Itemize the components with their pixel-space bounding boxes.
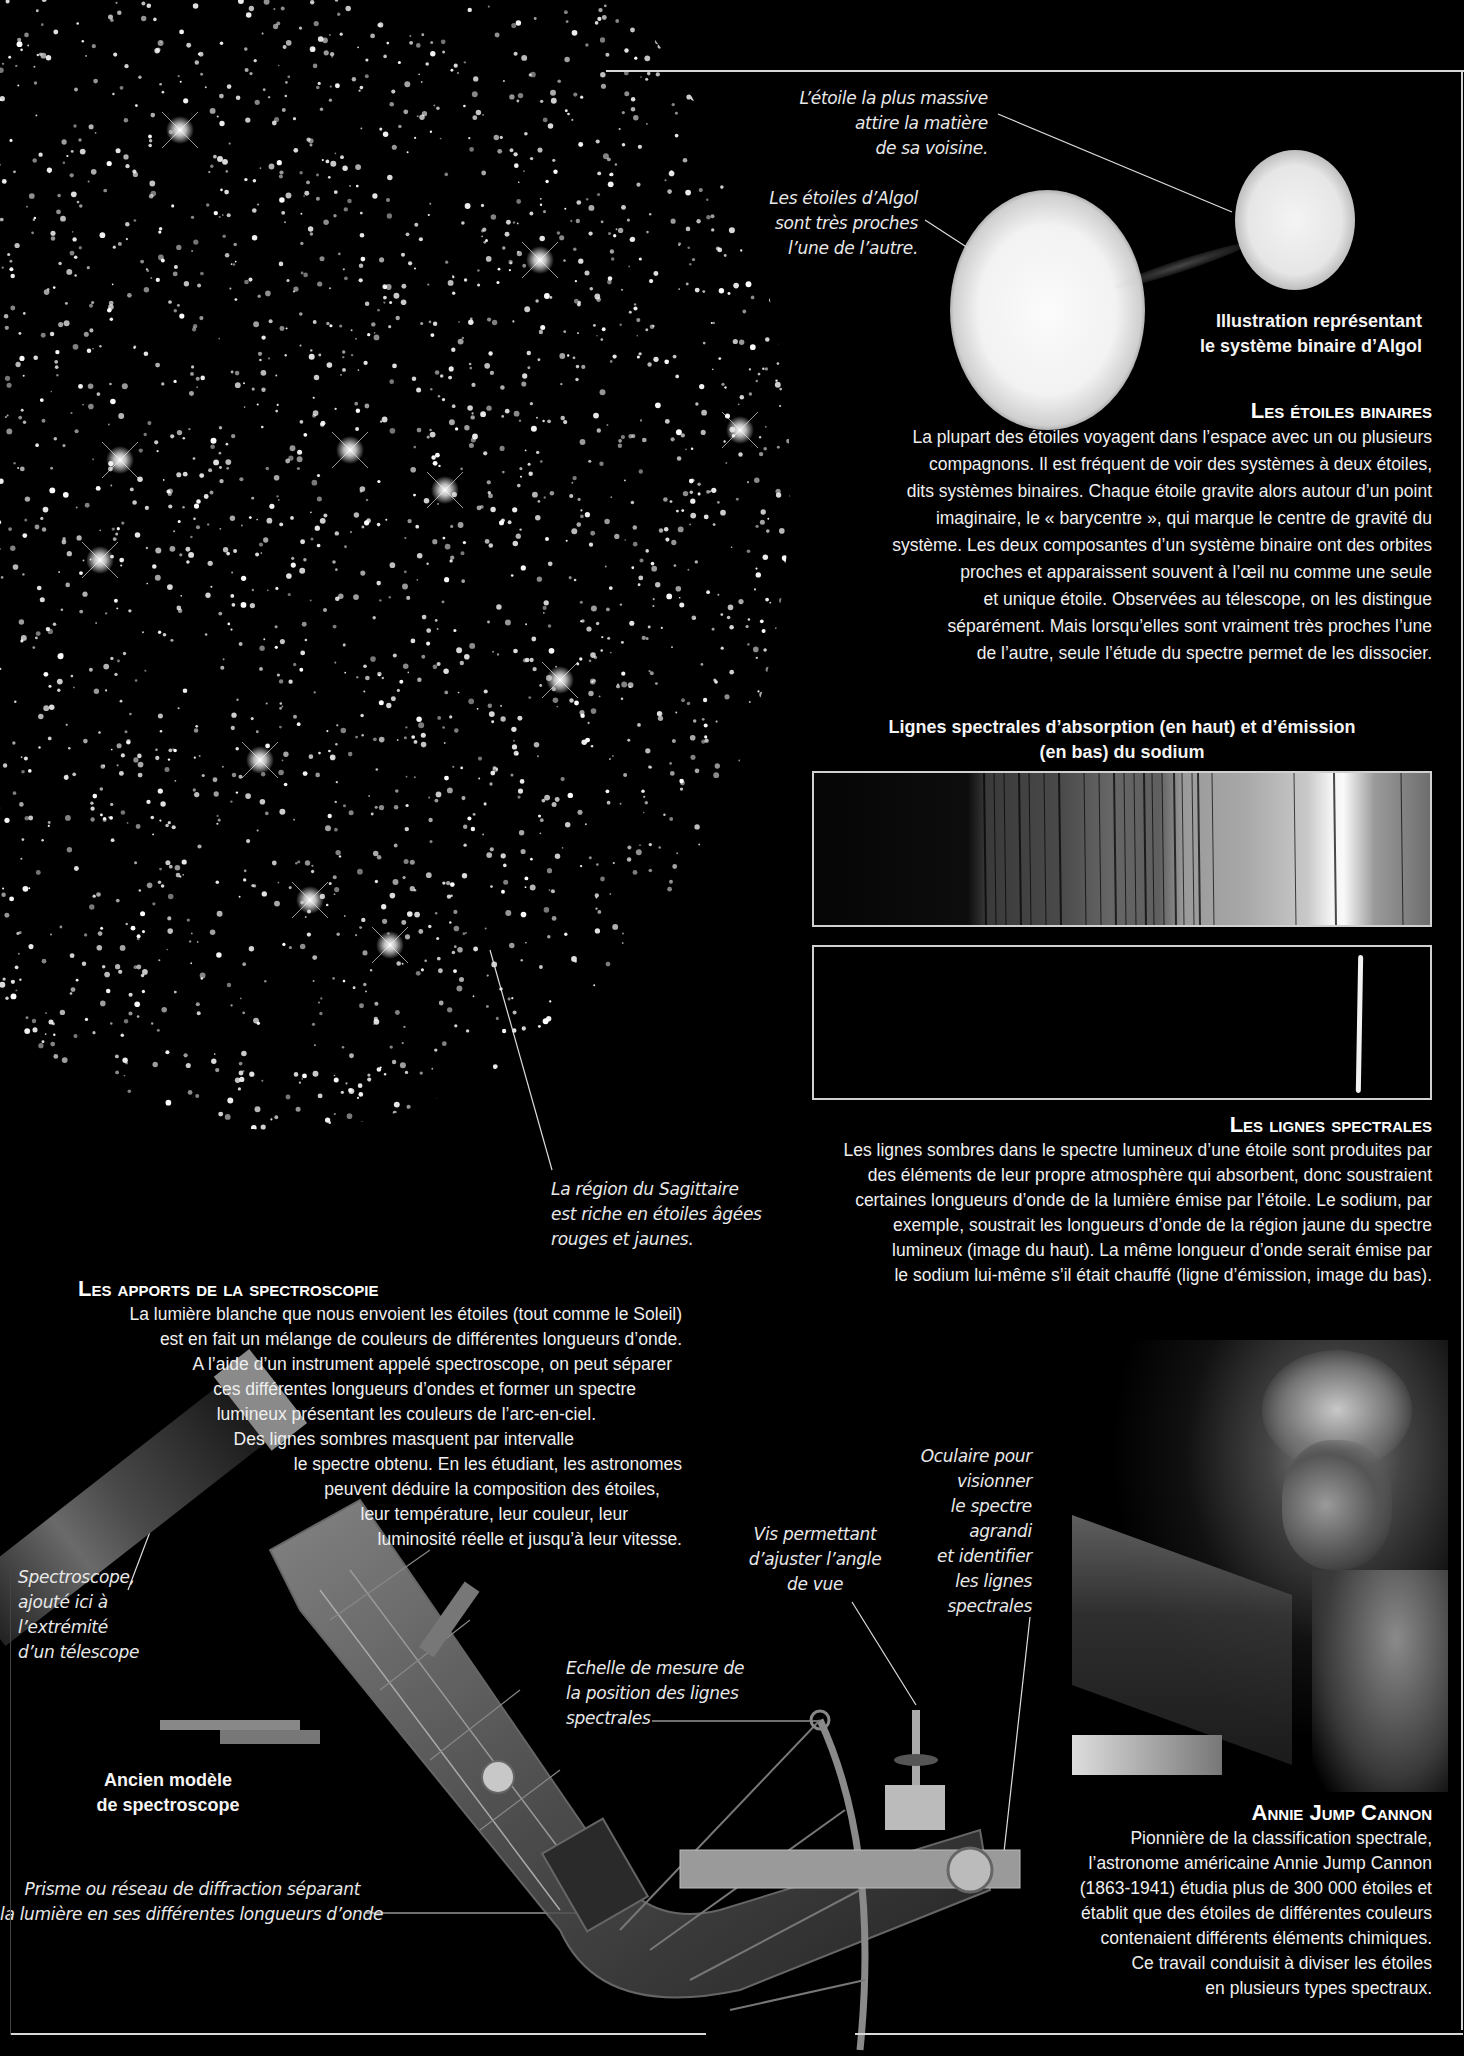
body-line: le spectre obtenu. En les étudiant, les …	[0, 1452, 682, 1477]
body-line: Les lignes sombres dans le spectre lumin…	[780, 1138, 1432, 1163]
scale-callout: Echelle de mesure de la position des lig…	[566, 1656, 744, 1731]
callout-line: la lumière en ses différentes longueurs …	[0, 1902, 360, 1927]
spectroscopy-body: La lumière blanche que nous envoient les…	[0, 1302, 682, 1552]
body-line: Pionnière de la classification spectrale…	[1000, 1826, 1432, 1851]
spectroscope-caption: Ancien modèle de spectroscope	[80, 1768, 256, 1818]
callout-line: Prisme ou réseau de diffraction séparant	[0, 1877, 360, 1902]
caption-line: Illustration représentant	[1100, 309, 1422, 334]
callout-line: le spectre	[900, 1494, 1032, 1519]
body-line: imaginaire, le « barycentre », qui marqu…	[780, 505, 1432, 532]
body-line: de l’autre, seule l’étude du spectre per…	[780, 640, 1432, 667]
body-line: établit que des étoiles de différentes c…	[1000, 1901, 1432, 1926]
body-line: exemple, soustrait les longueurs d’onde …	[780, 1213, 1432, 1238]
body-line: (1863-1941) étudia plus de 300 000 étoil…	[1000, 1876, 1432, 1901]
algol-caption: Illustration représentant le système bin…	[1100, 309, 1422, 359]
algol-close-callout: Les étoiles d’Algol sont très proches l’…	[700, 186, 918, 261]
algol-small-star	[1235, 150, 1355, 290]
callout-line: sont très proches	[700, 211, 918, 236]
section-heading: Les étoiles binaires	[780, 398, 1432, 424]
spectral-lines-section: Les lignes spectrales Les lignes sombres…	[780, 1112, 1432, 1288]
section-body: Les lignes sombres dans le spectre lumin…	[780, 1138, 1432, 1288]
callout-line: les lignes	[900, 1569, 1032, 1594]
algol-massive-callout: L’étoile la plus massive attire la matiè…	[760, 86, 988, 161]
sodium-emission-line	[1356, 955, 1363, 1093]
callout-line: Les étoiles d’Algol	[700, 186, 918, 211]
body-line: leur température, leur couleur, leur	[0, 1502, 682, 1527]
body-line: compagnons. Il est fréquent de voir des …	[780, 451, 1432, 478]
body-line: peuvent déduire la composition des étoil…	[0, 1477, 682, 1502]
screw-callout: Vis permettant d’ajuster l’angle de vue	[740, 1522, 890, 1597]
body-line: lumineux présentant les couleurs de l’ar…	[0, 1402, 682, 1427]
body-line: ces différentes longueurs d’ondes et for…	[0, 1377, 682, 1402]
callout-line: Echelle de mesure de	[566, 1656, 744, 1681]
body-line: séparément. Mais lorsqu’elles sont vraim…	[780, 613, 1432, 640]
annie-jump-cannon-photo	[1072, 1340, 1448, 1792]
spectroscopy-section: Les apports de la spectroscopie	[78, 1276, 718, 1302]
callout-line: attire la matière	[760, 111, 988, 136]
right-border	[1461, 70, 1463, 2030]
binary-stars-section: Les étoiles binaires La plupart des étoi…	[780, 398, 1432, 667]
eyepiece-callout: Oculaire pour visionner le spectre agran…	[900, 1444, 1032, 1619]
annie-jump-cannon-section: Annie Jump Cannon Pionnière de la classi…	[1000, 1800, 1432, 2001]
callout-line: l’extrémité	[18, 1615, 139, 1640]
bottom-rule-right	[855, 2033, 1463, 2035]
callout-line: spectrales	[900, 1594, 1032, 1619]
star-cluster-photo	[0, 0, 800, 1160]
bottom-rule-left	[10, 2033, 706, 2035]
caption-line: le système binaire d’Algol	[1100, 334, 1422, 359]
emission-spectrum	[812, 945, 1432, 1100]
section-body: Pionnière de la classification spectrale…	[1000, 1826, 1432, 2001]
body-line: l’astronome américaine Annie Jump Cannon	[1000, 1851, 1432, 1876]
callout-line: est riche en étoiles âgées	[551, 1202, 762, 1227]
callout-line: spectrales	[566, 1706, 744, 1731]
section-heading: Les apports de la spectroscopie	[78, 1276, 718, 1302]
callout-line: Oculaire pour	[900, 1444, 1032, 1469]
callout-line: la position des lignes	[566, 1681, 744, 1706]
section-heading: Annie Jump Cannon	[1000, 1800, 1432, 1826]
body-line: en plusieurs types spectraux.	[1000, 1976, 1432, 2001]
body-line: contenaient différents éléments chimique…	[1000, 1926, 1432, 1951]
body-line: La lumière blanche que nous envoient les…	[0, 1302, 682, 1327]
top-rule	[606, 70, 1464, 72]
left-border	[10, 1560, 11, 2035]
caption-line: Ancien modèle	[80, 1768, 256, 1793]
callout-line: et identifier	[900, 1544, 1032, 1569]
callout-line: rouges et jaunes.	[551, 1227, 762, 1252]
callout-line: d’un télescope	[18, 1640, 139, 1665]
body-line: lumineux (image du haut). La même longue…	[780, 1238, 1432, 1263]
callout-line: de vue	[740, 1572, 890, 1597]
body-line: proches et apparaissent souvent à l’œil …	[780, 559, 1432, 586]
body-line: Des lignes sombres masquent par interval…	[0, 1427, 682, 1452]
section-heading: Les lignes spectrales	[780, 1112, 1432, 1138]
title-line: (en bas) du sodium	[812, 740, 1432, 765]
photo-shoulder	[1312, 1570, 1448, 1792]
caption-line: de spectroscope	[80, 1793, 256, 1818]
callout-line: ajouté ici à	[18, 1590, 139, 1615]
sagittarius-callout: La région du Sagittaire est riche en éto…	[551, 1177, 762, 1252]
body-line: et unique étoile. Observées au télescope…	[780, 586, 1432, 613]
algol-illustration	[890, 120, 1450, 420]
prism-callout: Prisme ou réseau de diffraction séparant…	[0, 1877, 360, 1927]
body-line: le sodium lui-même s’il était chauffé (l…	[780, 1263, 1432, 1288]
photo-table	[1072, 1735, 1222, 1775]
section-body: La plupart des étoiles voyagent dans l’e…	[780, 424, 1432, 667]
callout-line: visionner	[900, 1469, 1032, 1494]
body-line: luminosité réelle et jusqu’à leur vitess…	[0, 1527, 682, 1552]
callout-line: Spectroscope,	[18, 1565, 139, 1590]
spectra-title: Lignes spectrales d’absorption (en haut)…	[812, 715, 1432, 765]
body-line: est en fait un mélange de couleurs de di…	[0, 1327, 682, 1352]
body-line: A l’aide d’un instrument appelé spectros…	[0, 1352, 682, 1377]
body-line: La plupart des étoiles voyagent dans l’e…	[780, 424, 1432, 451]
callout-line: agrandi	[900, 1519, 1032, 1544]
photo-face	[1282, 1440, 1392, 1570]
absorption-lines	[814, 773, 1430, 925]
body-line: dits systèmes binaires. Chaque étoile gr…	[780, 478, 1432, 505]
body-line: certaines longueurs d’onde de la lumière…	[780, 1188, 1432, 1213]
body-line: des éléments de leur propre atmosphère q…	[780, 1163, 1432, 1188]
body-line: système. Les deux composantes d’un systè…	[780, 532, 1432, 559]
callout-line: Vis permettant	[740, 1522, 890, 1547]
telescope-callout: Spectroscope, ajouté ici à l’extrémité d…	[18, 1565, 139, 1665]
callout-line: l’une de l’autre.	[700, 236, 918, 261]
body-line: Ce travail conduisit à diviser les étoil…	[1000, 1951, 1432, 1976]
title-line: Lignes spectrales d’absorption (en haut)…	[812, 715, 1432, 740]
